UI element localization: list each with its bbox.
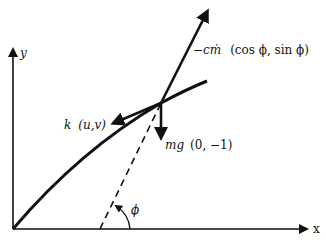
thrust-vector: (cos ϕ, sin ϕ) [230,43,309,57]
gravity-coef: mg [165,138,184,152]
drag-label: k (u,v) [64,118,106,132]
drag-coef: k [64,118,71,132]
angle-label: ϕ [131,203,139,217]
axes [13,50,306,229]
trajectory-diagram: y x −cṁ (cos ϕ, sin ϕ) k (u,v) mg (0, −1… [0,0,326,249]
y-axis-label: y [19,46,27,60]
thrust-coef: −cṁ [193,43,221,57]
thrust-label: −cṁ (cos ϕ, sin ϕ) [193,43,309,57]
x-axis-label: x [313,222,320,236]
drag-vector: (u,v) [78,118,106,132]
angle-arc [116,206,130,229]
gravity-label: mg (0, −1) [165,138,232,152]
thrust-arrow [161,12,207,103]
drag-arrow [114,103,161,123]
gravity-vector: (0, −1) [190,138,232,152]
